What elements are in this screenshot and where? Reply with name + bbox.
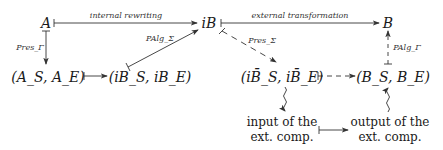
node-A: A	[41, 15, 51, 31]
node-iB: iB	[202, 15, 217, 31]
node-input-ext-comp: input of the ext. comp.	[247, 115, 318, 145]
input-line2: ext. comp.	[247, 130, 318, 145]
node-iB-pair: (iB_S, iB_E)	[109, 69, 192, 85]
label-palg-sigma: PAlg_Σ	[146, 34, 174, 43]
output-line2: ext. comp.	[351, 130, 430, 145]
wavy-arrow-to-input	[284, 87, 287, 111]
label-palg-gamma: PAlg_Γ	[393, 43, 421, 52]
node-B: B	[383, 15, 393, 31]
output-line1: output of the	[351, 115, 430, 130]
node-A-pair: (A_S, A_E)	[11, 69, 84, 85]
label-pres-gamma: Pres_Γ	[16, 43, 44, 52]
wavy-arrow-from-output	[387, 88, 390, 112]
label-external-transformation: external transformation	[252, 11, 349, 20]
label-internal-rewriting: internal rewriting	[90, 11, 162, 20]
label-pres-sigma: Pres_Σ	[248, 36, 276, 45]
node-iBbar-pair: (iB̄_S, iB̄_E)	[241, 69, 324, 85]
node-B-pair: (B_S, B_E)	[356, 69, 430, 85]
input-line1: input of the	[247, 115, 318, 130]
node-output-ext-comp: output of the ext. comp.	[351, 115, 430, 145]
